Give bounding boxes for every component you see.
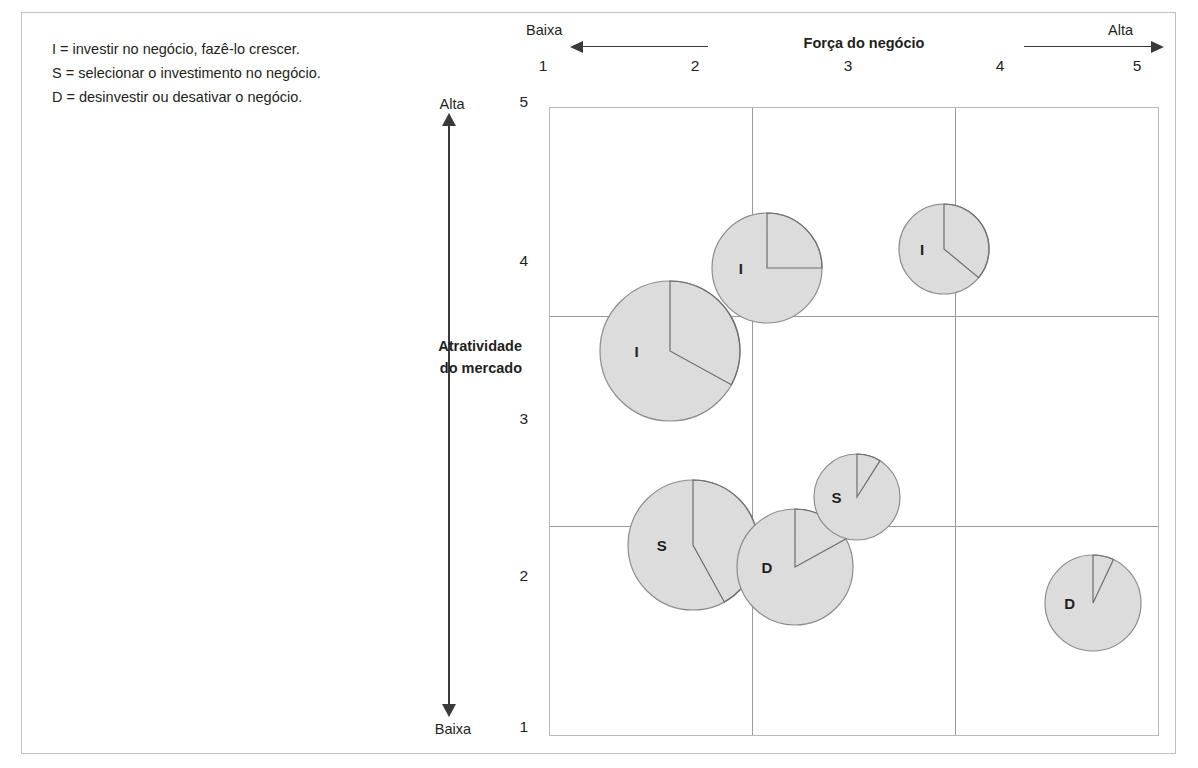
x-tick-2: 2 — [680, 57, 710, 75]
x-axis-arrow-left — [570, 41, 708, 53]
y-axis-arrow — [442, 113, 456, 717]
x-axis-arrow-right — [1024, 41, 1164, 53]
y-tick-5: 5 — [500, 93, 528, 111]
x-tick-3: 3 — [833, 57, 863, 75]
y-tick-4: 4 — [500, 252, 528, 270]
x-axis-low-label: Baixa — [526, 22, 562, 38]
gridline-vertical-1 — [752, 108, 753, 735]
y-axis-high-label: Alta — [422, 96, 482, 112]
y-axis-title-line2: do mercado — [440, 360, 522, 376]
y-tick-2: 2 — [500, 567, 528, 585]
bubble-label-i-3: I — [920, 241, 924, 258]
bubble-label-s-4: S — [657, 537, 667, 554]
bubble-d-7[interactable]: D — [1043, 553, 1143, 653]
x-tick-5: 5 — [1122, 57, 1152, 75]
x-axis: Baixa Alta Força do negócio 1 2 3 4 5 — [22, 13, 1198, 103]
x-tick-4: 4 — [985, 57, 1015, 75]
x-axis-title: Força do negócio — [784, 35, 944, 51]
bubble-label-d-7: D — [1064, 595, 1075, 612]
figure-frame: I = investir no negócio, fazê-lo crescer… — [21, 12, 1176, 754]
y-tick-1: 1 — [500, 718, 528, 736]
bubble-label-s-6: S — [831, 488, 841, 505]
bubble-label-i-1: I — [634, 342, 638, 359]
bubble-i-2[interactable]: I — [710, 211, 824, 325]
bubble-label-d-5: D — [761, 559, 772, 576]
plot-area: IIISDSD — [549, 107, 1159, 736]
y-axis-title: Atratividade do mercado — [377, 335, 522, 379]
bubble-label-i-2: I — [739, 259, 743, 276]
y-axis-low-label: Baixa — [418, 721, 488, 737]
x-tick-1: 1 — [528, 57, 558, 75]
y-tick-3: 3 — [500, 410, 528, 428]
x-axis-high-label: Alta — [1108, 22, 1133, 38]
bubble-s-6[interactable]: S — [812, 452, 902, 542]
y-axis-title-line1: Atratividade — [438, 338, 522, 354]
bubble-i-3[interactable]: I — [897, 202, 991, 296]
